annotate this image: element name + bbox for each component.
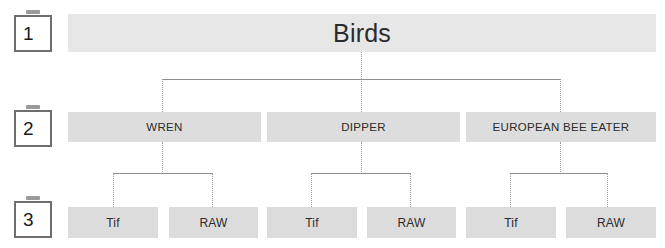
node-birds-label: Birds [333,19,391,48]
connector-drop-wren-raw [212,173,214,207]
level-3-badge-number: 3 [16,210,34,229]
connector-wren-stem [162,142,164,174]
level-2-badge-tab [26,105,40,109]
node-wren-raw[interactable]: RAW [169,207,258,238]
node-wren[interactable]: WREN [68,112,261,142]
node-dipper-tif[interactable]: Tif [267,207,357,238]
node-european-bee-eater-raw-label: RAW [597,216,625,230]
level-1-badge[interactable]: 1 [14,15,52,52]
level-2-badge-number: 2 [16,119,34,138]
level-3-badge[interactable]: 3 [14,201,52,238]
connector-wren-bus [113,173,213,174]
connector-drop-wren-tif [113,173,115,207]
connector-drop-european-bee-eater-tif [510,173,512,207]
level-2-badge[interactable]: 2 [14,110,52,147]
connector-european-bee-eater-stem [560,142,562,174]
node-birds[interactable]: Birds [68,14,656,52]
node-wren-tif-label: Tif [106,216,120,230]
node-dipper-label: DIPPER [341,121,386,133]
node-wren-label: WREN [146,121,182,133]
connector-drop-dipper-tif [311,173,313,207]
connector-drop-european-bee-eater-raw [607,173,609,207]
level-1-badge-number: 1 [16,24,34,43]
level-3-badge-tab [26,196,40,200]
connector-drop-dipper-raw [410,173,412,207]
connector-european-bee-eater-bus [510,173,608,174]
connector-drop-european-bee-eater [560,79,562,112]
node-dipper[interactable]: DIPPER [267,112,460,142]
connector-birds-stem [361,52,363,79]
connector-drop-dipper [361,79,363,112]
node-european-bee-eater-label: EUROPEAN BEE EATER [493,121,630,133]
connector-drop-wren [162,79,164,112]
node-european-bee-eater-raw[interactable]: RAW [566,207,656,238]
connector-dipper-stem [361,142,363,174]
node-european-bee-eater[interactable]: EUROPEAN BEE EATER [466,112,656,142]
hierarchy-diagram: 1 Birds 2 WREN DIPPER EUROPEAN BEE EATER… [0,0,665,248]
node-european-bee-eater-tif[interactable]: Tif [466,207,556,238]
node-wren-raw-label: RAW [199,216,227,230]
node-european-bee-eater-tif-label: Tif [504,216,518,230]
level-1-badge-tab [26,10,40,14]
node-dipper-raw-label: RAW [397,216,425,230]
node-dipper-raw[interactable]: RAW [367,207,456,238]
node-dipper-tif-label: Tif [305,216,319,230]
node-wren-tif[interactable]: Tif [68,207,158,238]
connector-dipper-bus [311,173,411,174]
